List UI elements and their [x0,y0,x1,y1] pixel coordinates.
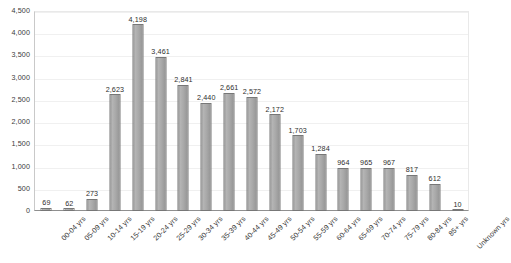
bar-series: 69622732,6234,1983,4612,8412,4402,6612,5… [35,11,469,211]
bar-value-label: 2,440 [197,94,216,101]
y-axis-tick-label: 500 [18,185,30,192]
bar[interactable] [155,57,166,211]
y-axis-tick-label: 3,500 [12,52,31,59]
bar-slot: 2,172 [263,11,286,211]
bar[interactable] [246,97,257,211]
y-axis-tick-label: 4,500 [12,7,31,14]
bar[interactable] [338,168,349,211]
bar-value-label: 2,661 [220,84,239,91]
bar[interactable] [429,184,440,211]
bar-slot: 3,461 [149,11,172,211]
bar-value-label: 69 [42,199,50,206]
y-axis-tick-label: 3,000 [12,74,31,81]
y-axis-tick-label: 4,000 [12,30,31,37]
bar-slot: 10 [446,11,469,211]
bar-slot: 273 [81,11,104,211]
bar[interactable] [269,114,280,211]
y-axis-tick-label: 1,000 [12,163,31,170]
bar-value-label: 965 [360,159,372,166]
y-axis-tick-label: 1,500 [12,141,31,148]
bar-slot: 69 [35,11,58,211]
x-axis-category-label: 75-79 yrs [403,215,430,242]
x-axis: 00-04 yrs05-09 yrs10-14 yrs15-19 yrs20-2… [35,213,469,263]
bar-value-label: 2,172 [266,106,285,113]
bar-value-label: 4,198 [129,16,148,23]
y-axis-tick-label: 2,000 [12,119,31,126]
bar[interactable] [64,208,75,211]
bar-value-label: 62 [65,200,73,207]
bar-slot: 2,661 [218,11,241,211]
bar-value-label: 1,703 [288,127,307,134]
x-axis-category-label: 40-44 yrs [243,215,270,242]
bar-slot: 62 [58,11,81,211]
y-axis-tick-label: 0 [26,207,30,214]
bar[interactable] [361,168,372,211]
bar[interactable] [132,24,143,211]
bar[interactable] [315,154,326,211]
bar-value-label: 3,461 [151,48,170,55]
bar[interactable] [292,135,303,211]
bar-value-label: 817 [406,166,418,173]
bar-slot: 1,284 [309,11,332,211]
bar-value-label: 964 [337,159,349,166]
y-axis: 4,5004,0003,5003,0002,5002,0001,5001,000… [0,0,32,215]
bar-value-label: 2,841 [174,76,193,83]
bar-slot: 964 [332,11,355,211]
bar-slot: 817 [400,11,423,211]
bar[interactable] [384,168,395,211]
x-axis-category-label: 10-14 yrs [106,215,133,242]
bar[interactable] [201,103,212,211]
bar-slot: 967 [378,11,401,211]
bar-value-label: 2,572 [243,88,262,95]
bar-value-label: 10 [453,201,461,208]
bar-value-label: 1,284 [311,145,330,152]
bar-slot: 612 [423,11,446,211]
bar-value-label: 612 [429,175,441,182]
y-axis-tick-label: 2,500 [12,96,31,103]
x-axis-category-label: Unknown yrs [475,215,510,250]
bar-slot: 4,198 [126,11,149,211]
bar-slot: 2,841 [172,11,195,211]
bar[interactable] [178,85,189,211]
bar-slot: 2,572 [241,11,264,211]
bar[interactable] [87,199,98,211]
bar-value-label: 273 [86,190,98,197]
bar-slot: 965 [355,11,378,211]
bar[interactable] [41,208,52,211]
bar-value-label: 2,623 [106,86,125,93]
bar-slot: 1,703 [286,11,309,211]
bar-value-label: 967 [383,159,395,166]
bar[interactable] [109,94,120,211]
bar[interactable] [452,209,463,211]
bar-slot: 2,623 [104,11,127,211]
bar[interactable] [224,93,235,211]
bar[interactable] [406,175,417,211]
bar-slot: 2,440 [195,11,218,211]
